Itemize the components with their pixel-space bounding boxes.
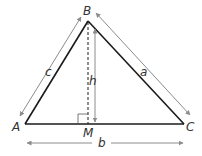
right-angle-marker <box>78 114 88 124</box>
vertex-c-label: C <box>186 120 195 134</box>
side-c-label: c <box>45 65 52 79</box>
side-a-arrow <box>96 13 190 115</box>
side-ab <box>25 21 88 124</box>
side-b-label: b <box>98 136 106 150</box>
side-bc <box>88 21 184 124</box>
triangle-diagram: B A C M c a b h <box>0 0 202 156</box>
height-label: h <box>89 74 97 88</box>
vertex-b-label: B <box>83 4 91 18</box>
side-a-label: a <box>140 65 147 79</box>
point-m-label: M <box>83 126 94 140</box>
vertex-a-label: A <box>11 120 20 134</box>
